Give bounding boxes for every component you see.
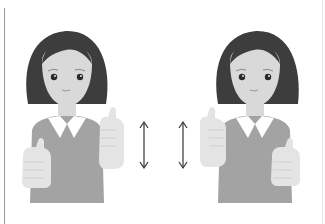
eye-highlight	[268, 75, 270, 77]
left-figure	[22, 31, 124, 203]
eye-highlight	[80, 75, 82, 77]
eye-highlight	[54, 75, 56, 77]
thumbs-up-hand-raised	[200, 107, 226, 167]
up-down-arrow-left	[140, 122, 148, 168]
eye	[77, 74, 83, 80]
eye	[51, 74, 57, 80]
eye	[265, 74, 271, 80]
sign-illustration	[0, 0, 325, 224]
thumbs-up-hand-raised	[99, 107, 124, 169]
right-figure	[200, 31, 300, 203]
eye-highlight	[242, 75, 244, 77]
up-down-arrow-right	[179, 122, 187, 168]
eye	[239, 74, 245, 80]
illustration-canvas	[0, 0, 325, 224]
